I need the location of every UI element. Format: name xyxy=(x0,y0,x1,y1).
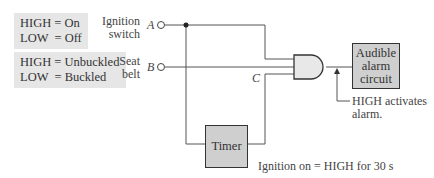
block-text: Audible xyxy=(356,47,396,60)
note-line: alarm. xyxy=(352,108,427,121)
block-text: Timer xyxy=(211,140,241,153)
audible-alarm-block: Audible alarm circuit xyxy=(352,43,400,89)
block-text: alarm xyxy=(356,60,396,73)
timer-note: Ignition on = HIGH for 30 s xyxy=(258,160,393,173)
timer-block: Timer xyxy=(205,125,248,168)
block-text: circuit xyxy=(356,73,396,86)
junction-dot-icon xyxy=(184,23,189,28)
terminal-a-icon xyxy=(158,22,165,29)
arrow-icon xyxy=(334,68,340,74)
and-gate-icon xyxy=(294,55,323,79)
output-note: HIGH activates alarm. xyxy=(352,95,427,121)
terminal-b-icon xyxy=(158,64,165,71)
